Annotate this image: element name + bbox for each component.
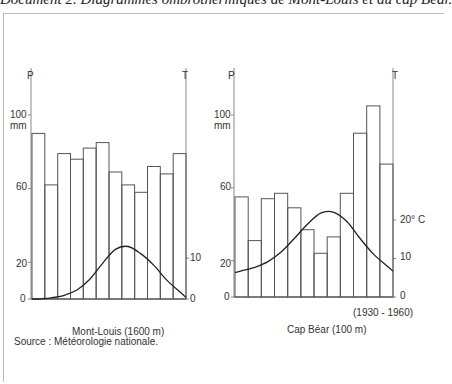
precipitation-bar — [32, 133, 45, 299]
source-note: Source : Météorologie nationale. — [14, 336, 158, 347]
mm-unit-label: mm — [214, 120, 231, 131]
t-tick-0: 0 — [190, 293, 196, 304]
t-tick-10: 10 — [400, 251, 411, 262]
precipitation-bar — [380, 164, 393, 297]
p-tick-20: 20 — [220, 258, 231, 269]
precipitation-bar — [275, 193, 288, 297]
p-tick-20: 20 — [16, 258, 27, 269]
precipitation-bar — [148, 167, 161, 300]
t-tick-20: 20° C — [400, 214, 425, 225]
precipitation-bar — [327, 237, 340, 297]
precipitation-bar — [261, 199, 274, 297]
precipitation-bar — [71, 159, 84, 299]
chart-title-cap-bear: Cap Béar (100 m) — [287, 324, 366, 335]
p-tick-0: 0 — [224, 291, 230, 302]
p-tick-100: 100 — [214, 109, 231, 120]
period-label: (1930 - 1960) — [353, 307, 413, 318]
precipitation-bar — [45, 185, 58, 299]
precipitation-bar — [173, 154, 186, 299]
p-tick-60: 60 — [220, 181, 231, 192]
p-tick-100: 100 — [10, 109, 27, 120]
mm-unit-label: mm — [10, 120, 27, 131]
precipitation-bar — [301, 230, 314, 297]
precipitation-bar — [135, 192, 148, 299]
precipitation-bar — [96, 143, 109, 299]
precipitation-bar — [354, 133, 367, 297]
t-axis-label: T — [392, 70, 398, 81]
precipitation-bar — [340, 193, 353, 297]
precipitation-bar — [314, 253, 327, 297]
t-axis-label: T — [182, 70, 188, 81]
p-axis-label: P — [27, 70, 34, 81]
p-axis-label: P — [228, 70, 235, 81]
precipitation-bar — [235, 197, 248, 297]
precipitation-bar — [122, 185, 135, 299]
t-tick-0: 0 — [400, 290, 406, 301]
precipitation-bar — [367, 106, 380, 297]
chart-cap-bear — [231, 68, 396, 297]
chart-mont-louis — [28, 68, 189, 299]
precipitation-bar — [58, 154, 71, 299]
precipitation-bar — [109, 172, 122, 299]
precipitation-bar — [288, 208, 301, 297]
precipitation-bar — [83, 148, 96, 299]
p-tick-0: 0 — [20, 293, 26, 304]
p-tick-60: 60 — [16, 181, 27, 192]
t-tick-10: 10 — [190, 252, 201, 263]
